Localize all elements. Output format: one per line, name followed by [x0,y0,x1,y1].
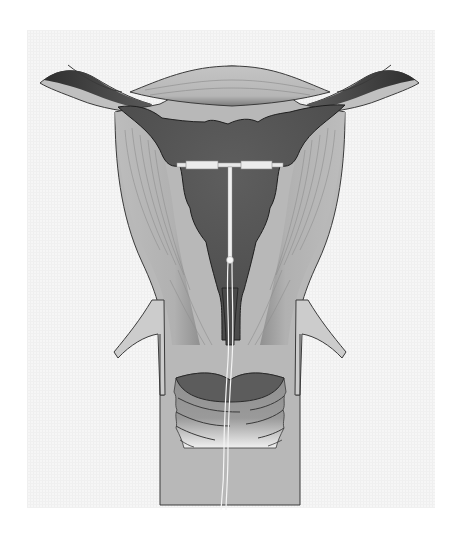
illustration-canvas [0,0,459,536]
uterus-iud-illustration [0,0,459,536]
iud-stem [228,167,232,259]
iud-left-arm-sleeve [186,161,218,169]
iud-stem-bead [227,257,234,264]
iud-right-arm-sleeve [241,161,272,169]
